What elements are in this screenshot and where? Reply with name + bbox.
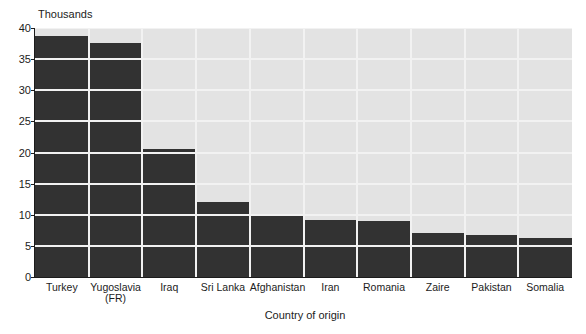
y-axis-unit-label: Thousands (38, 8, 92, 21)
y-tick-mark (31, 215, 34, 216)
y-tick-mark (31, 184, 34, 185)
bar (518, 238, 572, 277)
x-tick-label-line: Pakistan (471, 281, 511, 293)
y-tick-label: 5 (1, 241, 31, 252)
y-tick-mark (31, 90, 34, 91)
bar (89, 43, 142, 277)
y-tick-label: 40 (1, 23, 31, 34)
gridline-vertical (410, 28, 412, 277)
y-tick-label: 35 (1, 54, 31, 65)
y-tick-mark (31, 153, 34, 154)
bar (304, 220, 357, 277)
x-tick-label: Iran (304, 281, 358, 293)
gridline-vertical (356, 28, 358, 277)
y-tick-mark (31, 121, 34, 122)
gridline-vertical (141, 28, 143, 277)
y-tick-mark (31, 59, 34, 60)
gridline-vertical (195, 28, 197, 277)
x-tick-label-line: Iran (321, 281, 339, 293)
x-tick-label-line: Somalia (526, 281, 564, 293)
gridline-vertical (303, 28, 305, 277)
y-tick-mark (31, 28, 34, 29)
x-tick-label-line: (FR) (89, 293, 143, 304)
x-tick-label-line: Romania (363, 281, 405, 293)
y-axis-ticks: 0510152025303540 (0, 0, 31, 334)
x-tick-label-line: Sri Lanka (201, 281, 245, 293)
y-tick-label: 25 (1, 116, 31, 127)
y-tick-label: 0 (1, 272, 31, 283)
gridline-vertical (88, 28, 90, 277)
x-tick-label: Romania (357, 281, 411, 293)
x-tick-label: Turkey (35, 281, 89, 293)
x-axis-line (34, 277, 572, 278)
gridline-vertical (517, 28, 519, 277)
x-tick-label-line: Iraq (160, 281, 178, 293)
x-tick-label-line: Afghanistan (250, 281, 305, 293)
bar (357, 221, 411, 277)
gridline-vertical (249, 28, 251, 277)
x-tick-label: Afghanistan (250, 281, 304, 293)
y-tick-label: 30 (1, 85, 31, 96)
y-tick-label: 20 (1, 148, 31, 159)
x-tick-label-line: Turkey (46, 281, 78, 293)
gridline-vertical (464, 28, 466, 277)
x-axis-title: Country of origin (0, 309, 586, 322)
bar (35, 36, 89, 277)
x-tick-label: Zaire (411, 281, 465, 293)
y-tick-label: 15 (1, 179, 31, 190)
y-tick-mark (31, 277, 34, 278)
y-tick-mark (31, 246, 34, 247)
plot-area (35, 28, 572, 277)
x-tick-label: Sri Lanka (196, 281, 250, 293)
x-tick-label: Yugoslavia(FR) (89, 281, 143, 304)
bar-chart: Thousands 0510152025303540 TurkeyYugosla… (0, 0, 586, 334)
bar (465, 235, 518, 277)
x-axis-title-text: Country of origin (265, 309, 346, 322)
x-axis-tick-labels: TurkeyYugoslavia(FR)IraqSri LankaAfghani… (35, 281, 572, 311)
bar (411, 233, 465, 277)
x-tick-label: Somalia (518, 281, 572, 293)
x-tick-label: Iraq (142, 281, 196, 293)
x-tick-label-line: Zaire (426, 281, 450, 293)
x-tick-label: Pakistan (465, 281, 519, 293)
y-tick-label: 10 (1, 210, 31, 221)
